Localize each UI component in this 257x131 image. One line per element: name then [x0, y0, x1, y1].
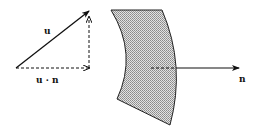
label-u: u: [44, 26, 51, 36]
vector-u-arrow: [16, 11, 89, 68]
label-u-dot-n: u · n: [36, 75, 59, 85]
vector-projection-diagram: u u · n n: [0, 0, 257, 131]
diagram-canvas: u u · n n: [0, 0, 257, 131]
label-n: n: [239, 74, 246, 84]
